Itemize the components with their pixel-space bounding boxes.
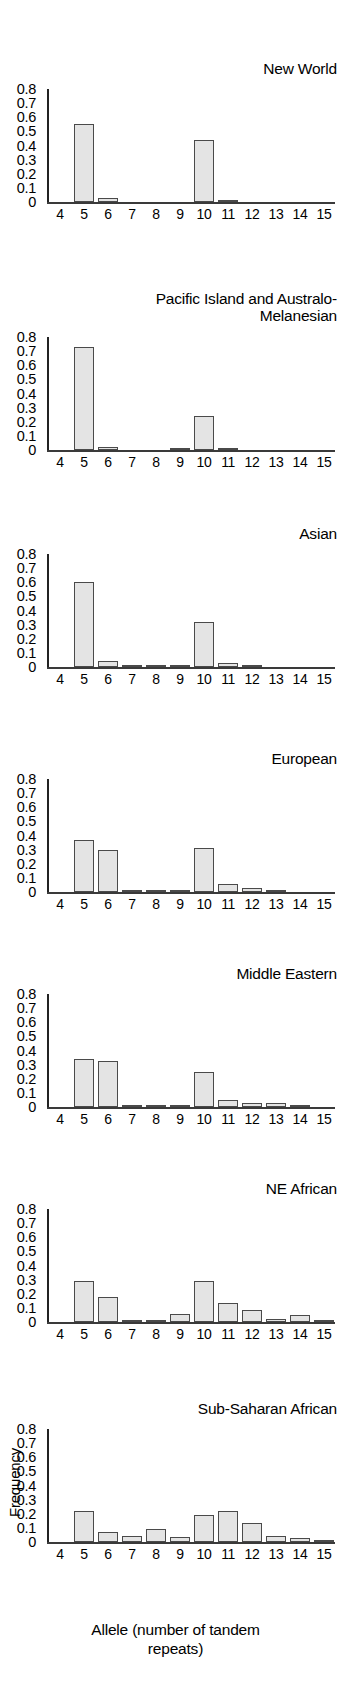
x-tick-label: 9 (176, 207, 183, 221)
x-tick-label: 4 (56, 897, 63, 911)
bar-allele-6 (98, 198, 118, 202)
x-tick-label: 12 (245, 1327, 260, 1341)
x-tick-label: 8 (152, 672, 159, 686)
bar-allele-12 (242, 1103, 262, 1107)
x-tick-label: 4 (56, 1112, 63, 1126)
bar-allele-5 (74, 1059, 94, 1107)
bar-allele-12 (242, 665, 262, 667)
bar-allele-13 (266, 1103, 286, 1107)
x-tick-label: 12 (245, 455, 260, 469)
y-axis-title: Frequency (6, 1433, 23, 1533)
panel-5: Middle Eastern0.80.70.60.50.40.30.20.104… (0, 965, 351, 1145)
bar-allele-6 (98, 850, 118, 892)
bar-series (47, 987, 335, 1107)
y-tick-label: 0 (28, 1100, 36, 1115)
x-tick-label: 14 (293, 1112, 308, 1126)
x-axis-ticks: 456789101112131415 (47, 1547, 335, 1565)
x-tick-label: 8 (152, 1112, 159, 1126)
x-tick-label: 13 (269, 672, 284, 686)
bar-allele-11 (218, 1511, 238, 1542)
y-axis-ticks: 0.80.70.60.50.40.30.20.10 (0, 330, 36, 450)
x-tick-label: 15 (317, 455, 332, 469)
x-axis-ticks: 456789101112131415 (47, 1112, 335, 1130)
y-axis-ticks: 0.80.70.60.50.40.30.20.10 (0, 1202, 36, 1322)
x-tick-label: 5 (80, 1547, 87, 1561)
bar-allele-15 (314, 1540, 334, 1542)
x-tick-label: 6 (104, 207, 111, 221)
x-axis-ticks: 456789101112131415 (47, 897, 335, 915)
x-tick-label: 4 (56, 1327, 63, 1341)
bar-allele-8 (146, 1320, 166, 1322)
x-tick-label: 11 (221, 1547, 235, 1561)
bar-allele-8 (146, 665, 166, 667)
bar-allele-7 (122, 665, 142, 667)
x-axis-line (47, 667, 335, 669)
bar-allele-11 (218, 663, 238, 667)
bar-allele-11 (218, 448, 238, 450)
y-tick-label: 0 (28, 885, 36, 900)
bar-allele-10 (194, 1515, 214, 1542)
bar-series (47, 547, 335, 667)
bar-allele-14 (290, 1538, 310, 1542)
bar-allele-6 (98, 447, 118, 450)
x-tick-label: 8 (152, 1327, 159, 1341)
bar-allele-5 (74, 840, 94, 892)
x-axis-line (47, 450, 335, 452)
x-axis-line (47, 1542, 335, 1544)
x-tick-label: 14 (293, 455, 308, 469)
bar-allele-8 (146, 1105, 166, 1107)
bar-allele-7 (122, 1536, 142, 1542)
bar-series (47, 1202, 335, 1322)
panel-2: Pacific Island and Australo-Melanesian0.… (0, 290, 351, 470)
bar-series (47, 330, 335, 450)
y-axis-ticks: 0.80.70.60.50.40.30.20.10 (0, 772, 36, 892)
bar-allele-6 (98, 1532, 118, 1542)
bar-allele-12 (242, 888, 262, 892)
x-tick-label: 10 (197, 672, 212, 686)
x-tick-label: 9 (176, 455, 183, 469)
bar-allele-7 (122, 1320, 142, 1322)
panel-4: European0.80.70.60.50.40.30.20.104567891… (0, 750, 351, 930)
x-tick-label: 15 (317, 1112, 332, 1126)
x-tick-label: 10 (197, 207, 212, 221)
bar-allele-9 (170, 665, 190, 667)
x-tick-label: 8 (152, 455, 159, 469)
x-tick-label: 11 (221, 1327, 235, 1341)
x-tick-label: 13 (269, 1327, 284, 1341)
bar-allele-14 (290, 1105, 310, 1107)
x-tick-label: 6 (104, 1112, 111, 1126)
bar-allele-5 (74, 582, 94, 667)
x-tick-label: 14 (293, 207, 308, 221)
y-tick-label: 0 (28, 1315, 36, 1330)
x-tick-label: 10 (197, 897, 212, 911)
bar-allele-10 (194, 1072, 214, 1107)
x-tick-label: 14 (293, 1547, 308, 1561)
bar-allele-6 (98, 1297, 118, 1322)
x-axis-line (47, 892, 335, 894)
bar-allele-8 (146, 1529, 166, 1542)
x-tick-label: 7 (128, 1112, 135, 1126)
panel-1: New World0.80.70.60.50.40.30.20.10456789… (0, 60, 351, 240)
bar-allele-6 (98, 1061, 118, 1107)
x-axis-ticks: 456789101112131415 (47, 672, 335, 690)
x-tick-label: 11 (221, 1112, 235, 1126)
x-tick-label: 6 (104, 1327, 111, 1341)
bar-allele-5 (74, 1511, 94, 1542)
bar-allele-10 (194, 848, 214, 892)
panel-7: Sub-Saharan African0.80.70.60.50.40.30.2… (0, 1400, 351, 1580)
x-tick-label: 11 (221, 897, 235, 911)
x-tick-label: 12 (245, 672, 260, 686)
x-tick-label: 4 (56, 1547, 63, 1561)
x-tick-label: 5 (80, 207, 87, 221)
x-tick-label: 15 (317, 897, 332, 911)
bar-allele-11 (218, 884, 238, 892)
x-tick-label: 8 (152, 897, 159, 911)
panel-title: Sub-Saharan African (198, 1400, 337, 1417)
x-tick-label: 7 (128, 207, 135, 221)
x-tick-label: 7 (128, 897, 135, 911)
x-axis-ticks: 456789101112131415 (47, 1327, 335, 1345)
bar-series (47, 82, 335, 202)
panel-title: NE African (266, 1180, 337, 1197)
x-axis-ticks: 456789101112131415 (47, 455, 335, 473)
x-tick-label: 8 (152, 207, 159, 221)
